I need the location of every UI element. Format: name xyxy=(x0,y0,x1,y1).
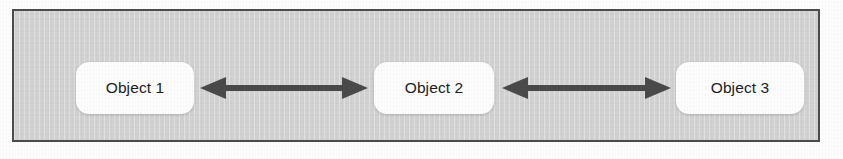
double-arrow-svg xyxy=(502,74,671,102)
node-object-3[interactable]: Object 3 xyxy=(676,62,804,114)
node-object-2[interactable]: Object 2 xyxy=(374,62,494,114)
diagram-panel: Object 1 Object 2 Object 3 xyxy=(12,9,820,142)
node-label: Object 3 xyxy=(711,79,770,97)
connector-double-arrow-icon[interactable] xyxy=(502,74,671,102)
node-label: Object 2 xyxy=(405,79,464,97)
node-label: Object 1 xyxy=(106,79,165,97)
node-object-1[interactable]: Object 1 xyxy=(76,62,194,114)
double-arrow-svg xyxy=(200,74,368,102)
connector-double-arrow-icon[interactable] xyxy=(200,74,368,102)
diagram-canvas: Object 1 Object 2 Object 3 xyxy=(0,0,843,159)
